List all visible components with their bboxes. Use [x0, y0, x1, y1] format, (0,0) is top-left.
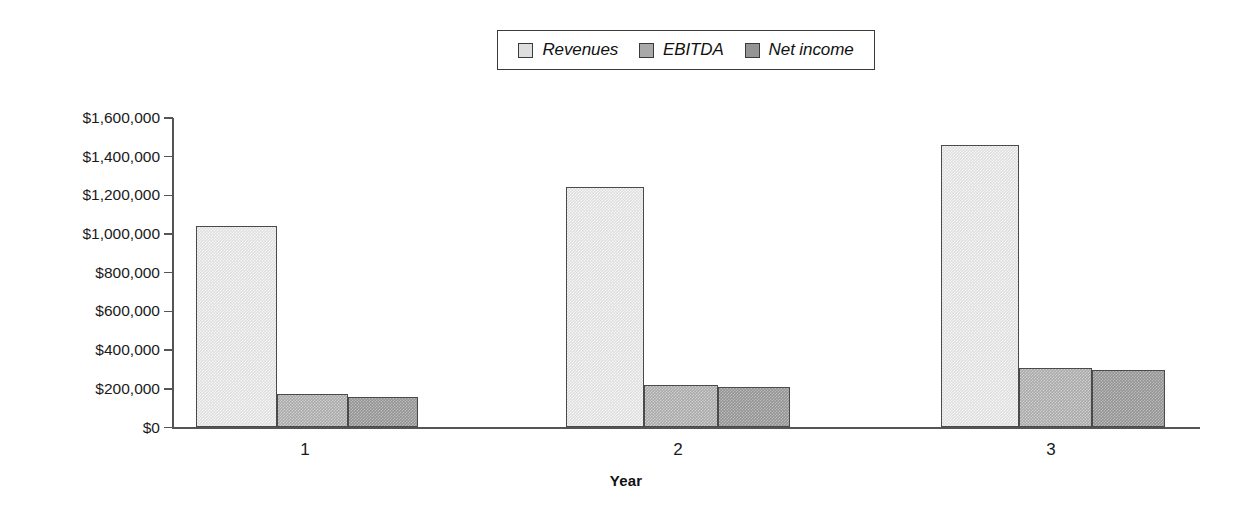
bar — [644, 385, 718, 428]
plot-area: $0$200,000$400,000$600,000$800,000$1,000… — [0, 0, 1252, 526]
y-axis-tick-label: $800,000 — [60, 264, 160, 282]
y-axis-tick-label: $0 — [60, 419, 160, 437]
y-axis-tick-mark — [164, 117, 173, 118]
bar — [277, 394, 348, 428]
y-axis-tick-label: $1,000,000 — [60, 225, 160, 243]
bar — [566, 187, 644, 428]
y-axis-tick-label: $1,200,000 — [60, 186, 160, 204]
y-axis-tick-mark — [164, 156, 173, 157]
bar — [1092, 370, 1165, 428]
y-axis-tick-mark — [164, 233, 173, 234]
y-axis-tick-label: $1,600,000 — [60, 109, 160, 127]
bar — [941, 145, 1019, 427]
y-axis-tick-mark — [164, 272, 173, 273]
y-axis-tick-label: $200,000 — [60, 380, 160, 398]
y-axis-tick-label: $400,000 — [60, 341, 160, 359]
y-axis-tick-label: $1,400,000 — [60, 148, 160, 166]
chart-page: Revenues EBITDA Net income $0$200,000$40… — [0, 0, 1252, 526]
bar — [196, 226, 277, 427]
y-axis-tick-mark — [164, 195, 173, 196]
x-axis-title: Year — [0, 472, 1252, 489]
x-axis-category-label: 2 — [618, 440, 738, 460]
bar — [718, 387, 790, 427]
y-axis-tick-mark — [164, 349, 173, 350]
bar — [1019, 368, 1092, 428]
y-axis-tick-mark — [164, 388, 173, 389]
y-axis-tick-mark — [164, 427, 173, 428]
x-axis-category-label: 1 — [245, 440, 365, 460]
bar — [348, 397, 418, 428]
x-axis-category-label: 3 — [991, 440, 1111, 460]
y-axis-tick-label: $600,000 — [60, 302, 160, 320]
y-axis-tick-mark — [164, 311, 173, 312]
